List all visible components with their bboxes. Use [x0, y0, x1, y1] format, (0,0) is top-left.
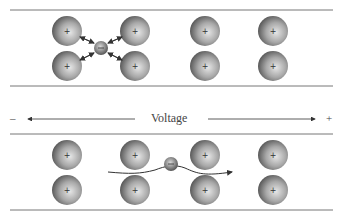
- svg-text:+: +: [270, 62, 277, 71]
- voltage-label: Voltage: [151, 111, 187, 126]
- positive-terminal-label: +: [326, 112, 332, 124]
- svg-text:+: +: [270, 151, 277, 160]
- svg-text:+: +: [202, 186, 209, 195]
- svg-text:+: +: [64, 186, 71, 195]
- svg-text:+: +: [202, 151, 209, 160]
- svg-text:+: +: [270, 27, 277, 36]
- svg-text:+: +: [202, 62, 209, 71]
- svg-text:+: +: [132, 151, 139, 160]
- svg-text:+: +: [132, 62, 139, 71]
- svg-text:+: +: [270, 186, 277, 195]
- negative-terminal-label: –: [10, 112, 16, 124]
- svg-text:+: +: [64, 62, 71, 71]
- svg-text:+: +: [202, 27, 209, 36]
- conduction-diagram: ++++++++++++++++: [0, 0, 347, 220]
- svg-text:+: +: [132, 186, 139, 195]
- svg-text:+: +: [64, 151, 71, 160]
- svg-text:+: +: [132, 27, 139, 36]
- svg-text:+: +: [64, 27, 71, 36]
